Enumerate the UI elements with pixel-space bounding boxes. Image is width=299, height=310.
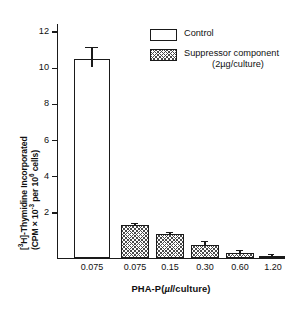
- legend-sublabel-suppressor-dose: (2µg/culture): [184, 59, 292, 70]
- bar-control-0.075: [74, 59, 110, 258]
- open-box-swatch: [150, 29, 177, 41]
- error-bar-cap-suppressor-0.60: [236, 250, 243, 251]
- error-bar-cap-control-0.075: [85, 47, 98, 48]
- error-bar-cap-suppressor-0.15: [166, 232, 173, 233]
- x-axis-title: PHA-P(µl/culture): [57, 283, 285, 294]
- x-tick-label-control-0.075: 0.075: [69, 262, 115, 272]
- x-title-microliter: µl: [164, 283, 172, 294]
- bar-suppressor-0.075: [121, 225, 149, 258]
- bar-suppressor-0.60: [226, 253, 254, 258]
- error-bar-cap-suppressor-1.20: [268, 254, 274, 255]
- legend-label-suppressor: Suppressor component: [184, 48, 298, 59]
- bar-suppressor-0.30: [191, 245, 219, 258]
- legend-entry-control: Control: [150, 28, 298, 39]
- error-bar-cap-suppressor-0.30: [201, 241, 208, 242]
- chart-figure: [3H]-Thymidine Incorporated (CPM × 10-3 …: [0, 0, 299, 310]
- chart-legend: Control Suppressor component (2µg/cultur…: [150, 28, 298, 79]
- hatched-box-swatch: [150, 49, 177, 61]
- legend-label-control: Control: [184, 28, 298, 39]
- legend-entry-suppressor: Suppressor component (2µg/culture): [150, 48, 298, 70]
- bar-suppressor-0.15: [156, 234, 184, 258]
- x-tick-label-0.15: 0.15: [150, 262, 190, 272]
- x-tick-label-0.30: 0.30: [185, 262, 225, 272]
- error-bar-cap-suppressor-0.075: [131, 223, 138, 224]
- error-bar-control-0.075: [91, 47, 92, 67]
- x-tick-label-1.20: 1.20: [253, 262, 293, 272]
- x-axis-line: [57, 258, 285, 259]
